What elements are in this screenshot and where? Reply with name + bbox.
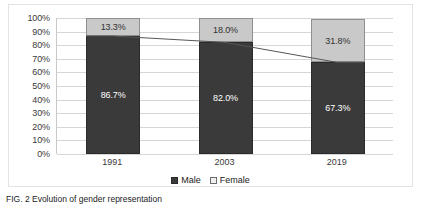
legend-item[interactable]: Male	[171, 175, 201, 185]
bar-group[interactable]: 86.7%13.3%	[86, 18, 140, 154]
bar-group[interactable]: 82.0%18.0%	[199, 18, 253, 154]
y-axis-tick-label: 30%	[32, 108, 50, 118]
legend-swatch-icon	[171, 177, 178, 184]
bar-segment-female[interactable]: 18.0%	[199, 18, 253, 42]
y-axis-tick-label: 80%	[32, 40, 50, 50]
bar-segment-male[interactable]: 67.3%	[311, 62, 365, 154]
y-axis-tick-label: 50%	[32, 81, 50, 91]
y-axis-tick-label: 0%	[37, 149, 50, 159]
legend-label: Male	[181, 175, 201, 185]
figure: 0%10%20%30%40%50%60%70%80%90%100% 86.7%1…	[0, 0, 423, 205]
x-axis-tick-label: 2003	[214, 157, 234, 167]
bar-value-label: 31.8%	[325, 36, 350, 46]
figure-caption: FIG. 2 Evolution of gender representatio…	[6, 194, 423, 205]
chart-legend: MaleFemale	[9, 174, 412, 186]
y-axis-tick-label: 10%	[32, 135, 50, 145]
chart-frame: 0%10%20%30%40%50%60%70%80%90%100% 86.7%1…	[8, 4, 413, 187]
y-axis: 0%10%20%30%40%50%60%70%80%90%100%	[9, 18, 53, 154]
legend-item[interactable]: Female	[210, 175, 250, 185]
gridline	[57, 154, 393, 155]
legend-swatch-icon	[210, 177, 217, 184]
x-axis: 199120032019	[56, 157, 393, 173]
bar-value-label: 67.3%	[325, 103, 350, 113]
bar-series: 86.7%13.3%82.0%18.0%67.3%31.8%	[57, 18, 393, 154]
x-axis-tick-label: 2019	[327, 157, 347, 167]
bar-segment-male[interactable]: 82.0%	[199, 42, 253, 154]
legend-label: Female	[220, 175, 250, 185]
bar-value-label: 13.3%	[101, 22, 126, 32]
x-axis-tick-label: 1991	[102, 157, 122, 167]
plot-area: 86.7%13.3%82.0%18.0%67.3%31.8%	[56, 18, 393, 154]
bar-value-label: 82.0%	[213, 93, 238, 103]
y-axis-tick-label: 90%	[32, 27, 50, 37]
y-axis-tick-label: 40%	[32, 95, 50, 105]
bar-segment-female[interactable]: 31.8%	[311, 19, 365, 62]
bar-value-label: 18.0%	[213, 25, 238, 35]
y-axis-tick-label: 100%	[27, 13, 50, 23]
y-axis-tick-label: 60%	[32, 67, 50, 77]
y-axis-tick-label: 20%	[32, 122, 50, 132]
bar-segment-male[interactable]: 86.7%	[86, 36, 140, 154]
y-axis-tick-label: 70%	[32, 54, 50, 64]
bar-value-label: 86.7%	[101, 90, 126, 100]
bar-segment-female[interactable]: 13.3%	[86, 18, 140, 36]
bar-group[interactable]: 67.3%31.8%	[311, 18, 365, 154]
